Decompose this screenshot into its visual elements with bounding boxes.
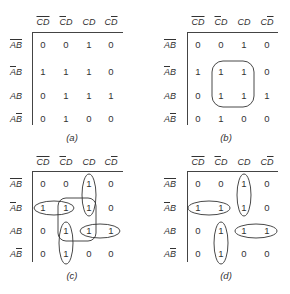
grouping-quad: [58, 198, 96, 241]
header-rule: [32, 32, 123, 33]
kmap-a: CD CD CD CD AB AB AB AB 0 0 1 0 1 1 1 0 …: [0, 0, 145, 147]
cell: 0: [108, 114, 113, 124]
caption: (d): [220, 271, 232, 281]
grouping-loops: [145, 147, 290, 294]
grouping-row-ab-right: [235, 224, 277, 238]
cell: 0: [40, 40, 45, 50]
grouping-quad: [212, 61, 254, 107]
grouping-row-abarb-left: [188, 201, 230, 215]
grouping-col-cbard-bottom: [59, 222, 73, 264]
col-header-c-d: CD: [83, 17, 96, 27]
grouping-col-cd-top: [82, 174, 96, 216]
cell: 1: [86, 40, 91, 50]
cell: 0: [40, 91, 45, 101]
grouping-col-cd-top: [237, 174, 251, 216]
row-header-abar-bbar: AB: [10, 40, 22, 50]
cell: 1: [40, 67, 45, 77]
cell: 1: [63, 114, 68, 124]
cell: 1: [63, 67, 68, 77]
cell: 0: [108, 67, 113, 77]
cell: 1: [63, 91, 68, 101]
cell: 1: [86, 91, 91, 101]
cell: 0: [108, 40, 113, 50]
cell: 0: [40, 114, 45, 124]
caption: (b): [220, 133, 232, 143]
row-header-a-bbar: AB: [10, 114, 22, 124]
row-header-abar-b: AB: [10, 67, 22, 77]
col-header-c-dbar: CD: [105, 17, 118, 27]
cell: 0: [86, 114, 91, 124]
cell: 1: [86, 67, 91, 77]
grouping-row-ab-right: [80, 224, 120, 238]
row-header-a-b: AB: [10, 91, 22, 101]
kmap-c: CD CD CD CD AB AB AB AB 0 0 1 0 1 1 1 0 …: [0, 147, 145, 294]
cell: 1: [108, 91, 113, 101]
kmap-b: CD CD CD CD AB AB AB AB 0 0 1 0 1 1 1 0 …: [145, 0, 290, 147]
grouping-col-cbard-bottom: [214, 222, 228, 264]
row-rule: [32, 32, 33, 125]
col-header-cbar-dbar: CD: [37, 17, 50, 27]
col-header-cbar-d: CD: [60, 17, 73, 27]
kmap-d: CD CD CD CD AB AB AB AB 0 0 1 0 1 1 1 0 …: [145, 147, 290, 294]
grouping-loops: [145, 0, 290, 147]
caption: (c): [66, 271, 77, 281]
grouping-row-abarb-left: [34, 201, 74, 215]
cell: 0: [63, 40, 68, 50]
caption: (a): [66, 133, 78, 143]
